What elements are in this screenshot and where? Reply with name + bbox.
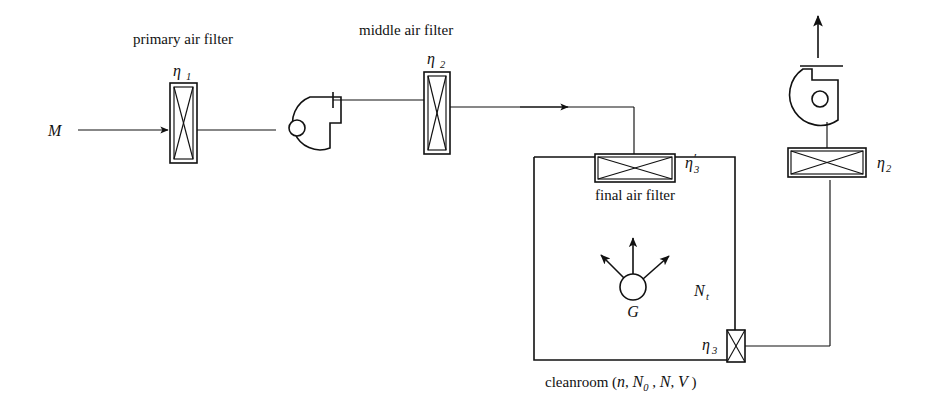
- eta-subscript: 1: [186, 71, 191, 82]
- eta-subscript: 3: [711, 345, 717, 356]
- caption-prefix: cleanroom (: [545, 374, 617, 391]
- caption-n: n: [617, 373, 625, 390]
- eta-symbol: η: [427, 50, 435, 68]
- eta-subscript: 3: [693, 164, 699, 175]
- room-concentration-subscript: t: [706, 291, 710, 302]
- eta-symbol: η: [702, 336, 710, 354]
- eta-symbol: η: [685, 154, 693, 172]
- middle-air-filter: [424, 72, 450, 154]
- exhaust-fan: [790, 66, 843, 125]
- caption-comma3: ,: [670, 374, 678, 390]
- primary-air-filter-efficiency-label: η 1: [173, 62, 191, 82]
- eta-symbol: η: [877, 154, 885, 172]
- eta-subscript: 2: [440, 59, 446, 70]
- diagram-canvas: M primary air filter η 1 middle air filt…: [0, 0, 926, 409]
- eta-subscript: 2: [886, 163, 892, 174]
- return-duct-run: [745, 180, 830, 346]
- return-air-filter-efficiency-label: η 3: [702, 336, 717, 356]
- caption-suffix: ): [688, 374, 697, 391]
- cleanroom-schematic: M primary air filter η 1 middle air filt…: [0, 0, 926, 409]
- caption-comma1: ,: [625, 374, 633, 390]
- final-air-filter-efficiency-label: η 3 ′: [685, 150, 699, 175]
- cleanroom-caption: cleanroom (n, N0 , N, V ): [545, 373, 696, 393]
- eta-prime-mark: ′: [694, 150, 697, 165]
- room-concentration-label: N t: [693, 282, 710, 302]
- primary-air-filter: [170, 83, 197, 163]
- return-air-filter: [727, 330, 745, 362]
- primary-air-filter-caption: primary air filter: [133, 31, 233, 47]
- contamination-source: [601, 238, 669, 300]
- exhaust-air-filter-efficiency-label: η 2: [877, 154, 892, 174]
- svg-text:cleanroom (n, N0 , N, V ): cleanroom (n, N0 , N, V ): [545, 373, 696, 393]
- caption-comma2: ,: [648, 374, 659, 390]
- middle-air-filter-efficiency-label: η 2: [427, 50, 446, 70]
- room-concentration-symbol: N: [693, 282, 706, 299]
- eta-symbol: η: [173, 62, 181, 80]
- supply-duct-run: [450, 107, 634, 157]
- final-air-filter-caption: final air filter: [595, 187, 675, 203]
- inlet-flow-label: M: [47, 122, 63, 139]
- middle-air-filter-caption: middle air filter: [359, 22, 453, 38]
- contamination-source-label: G: [627, 303, 639, 320]
- exhaust-air-filter: [788, 148, 866, 177]
- final-air-filter: [595, 154, 675, 182]
- supply-fan: [289, 92, 341, 150]
